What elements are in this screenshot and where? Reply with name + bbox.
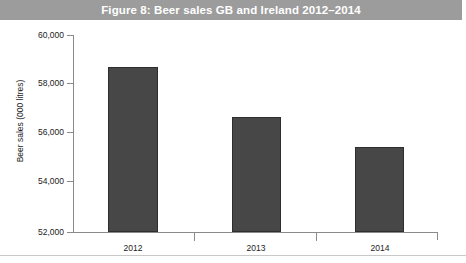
x-axis-label-2012: 2012 xyxy=(103,244,163,253)
footer-divider xyxy=(0,255,466,256)
y-tick-label-56000: 56,000 xyxy=(4,128,64,137)
figure-title-banner: Figure 8: Beer sales GB and Ireland 2012… xyxy=(0,0,462,20)
y-tick-label-58000: 58,000 xyxy=(4,79,64,88)
y-tick-label-60000: 60,000 xyxy=(4,31,64,40)
bar-2012[interactable] xyxy=(108,67,158,232)
x-axis-label-2014: 2014 xyxy=(350,244,410,253)
page-title: Figure 8: Beer sales GB and Ireland 2012… xyxy=(101,0,361,20)
bar-2013[interactable] xyxy=(232,117,281,232)
x-axis-end-tick xyxy=(437,232,438,240)
y-tick-label-52000: 52,000 xyxy=(4,228,64,237)
y-axis-line xyxy=(73,35,74,232)
x-axis-line xyxy=(73,232,437,233)
y-tick-54000 xyxy=(67,181,74,182)
y-tick-60000 xyxy=(67,35,74,36)
y-tick-58000 xyxy=(67,83,74,84)
bar-2014[interactable] xyxy=(355,147,404,232)
y-tick-52000 xyxy=(67,232,74,233)
x-axis-separator-1 xyxy=(194,233,195,241)
x-axis-separator-2 xyxy=(316,233,317,241)
x-axis-label-2013: 2013 xyxy=(226,244,286,253)
figure-container: Figure 8: Beer sales GB and Ireland 2012… xyxy=(0,0,466,263)
y-tick-label-54000: 54,000 xyxy=(4,177,64,186)
y-tick-56000 xyxy=(67,132,74,133)
bar-chart: Beer sales (000 litres) 60,000 58,000 56… xyxy=(0,20,466,255)
